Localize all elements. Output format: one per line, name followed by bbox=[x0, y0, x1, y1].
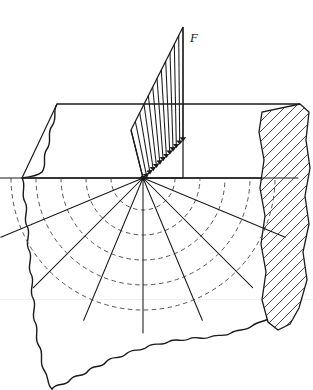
figure-root: MECHANICS OF SOILS AND bbox=[0, 0, 313, 390]
load-arrow-1 bbox=[131, 130, 143, 178]
radial-stress-lines bbox=[0, 178, 298, 333]
triangular-load-distribution bbox=[131, 27, 183, 178]
force-label: F bbox=[189, 30, 199, 45]
point-load-stress-diagram: F bbox=[0, 0, 313, 390]
top-left-slant-edge bbox=[22, 104, 57, 178]
load-point-marker bbox=[140, 175, 145, 180]
hatched-section-cut-right bbox=[244, 48, 313, 368]
torn-break-edge-left bbox=[22, 104, 57, 389]
